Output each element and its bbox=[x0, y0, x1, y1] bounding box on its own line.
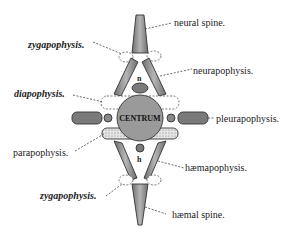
lower-zygapophysis-right bbox=[147, 175, 161, 185]
haemapophysis-left bbox=[114, 141, 137, 180]
label-pleurapophysis: pleurapophysis. bbox=[216, 113, 279, 124]
label-zygapophysis-lower: zygapophysis. bbox=[39, 190, 96, 201]
centrum-label: CENTRUM bbox=[119, 114, 161, 123]
haemapophysis-right bbox=[144, 141, 166, 180]
rib-head-left bbox=[104, 114, 112, 122]
label-neurapophysis: neurapophysis. bbox=[193, 65, 253, 76]
neural-spine-shape bbox=[132, 15, 148, 53]
label-neural-spine: neural spine. bbox=[174, 17, 225, 28]
label-haemal-spine: hæmal spine. bbox=[172, 209, 225, 220]
vertebra-diagram: n CENTRUM h neural spine. zygapophysis. … bbox=[0, 0, 297, 238]
label-diapophysis: diapophysis. bbox=[14, 88, 65, 99]
label-zygapophysis-upper: zygapophysis. bbox=[27, 39, 84, 50]
label-haemapophysis: hæmapophysis. bbox=[185, 162, 247, 173]
neural-canal-shape bbox=[132, 83, 148, 93]
neural-canal-label: n bbox=[137, 74, 142, 83]
haemal-spine-shape bbox=[132, 184, 148, 225]
pleurapophysis-right bbox=[178, 112, 208, 124]
lower-zygapophysis-left bbox=[119, 175, 133, 185]
haemal-canal-shape bbox=[136, 144, 144, 152]
rib-head-right bbox=[167, 114, 175, 122]
haemal-canal-label: h bbox=[137, 155, 142, 164]
pleurapophysis-left bbox=[72, 112, 102, 124]
label-parapophysis: parapophysis. bbox=[13, 147, 68, 158]
